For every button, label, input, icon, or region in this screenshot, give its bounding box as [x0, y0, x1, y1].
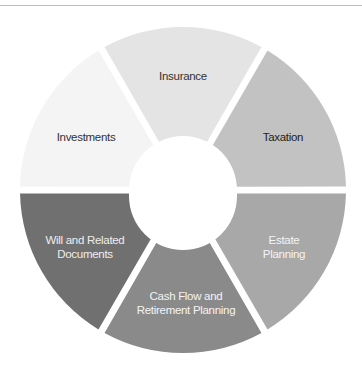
segment-label-insurance: Insurance [159, 70, 207, 82]
segment-label-will-line1: Will and Related [46, 234, 125, 246]
segment-label-cash-flow-line1: Cash Flow and [150, 290, 223, 302]
segment-label-estate-planning-line2: Planning [263, 248, 305, 260]
segment-label-taxation: Taxation [263, 131, 303, 143]
segment-label-investments: Investments [57, 131, 116, 143]
segment-label-cash-flow-line2: Retirement Planning [137, 304, 236, 316]
segment-label-estate-planning-line1: Estate [269, 234, 300, 246]
segment-label-will-line2: Documents [57, 248, 113, 260]
center-hub [129, 142, 237, 250]
financial-planning-wheel: Insurance Taxation Estate Planning Cash … [0, 0, 362, 375]
